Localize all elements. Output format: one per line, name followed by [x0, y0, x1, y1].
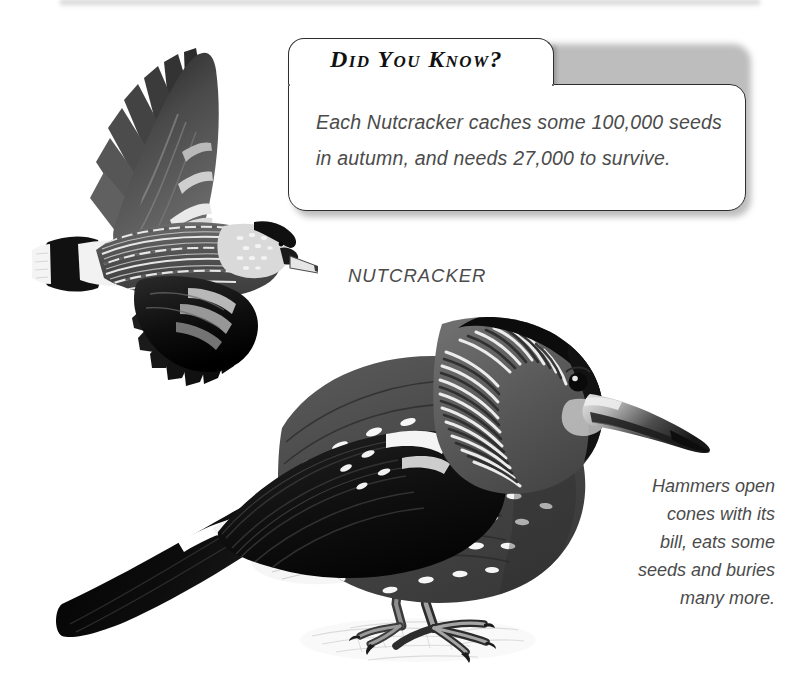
perched-bird-bill	[582, 394, 710, 453]
callout-text-line-2: in autumn, and needs 27,000 to survive.	[316, 147, 671, 169]
scan-shadow-artifact	[60, 0, 760, 7]
did-you-know-callout: Did You Know? Each Nutcracker caches som…	[288, 38, 746, 211]
behaviour-caption: Hammers open cones with its bill, eats s…	[585, 472, 775, 612]
caption-line-5: many more.	[585, 584, 775, 612]
callout-tab-body-join	[290, 82, 552, 87]
callout-text-line-1: Each Nutcracker caches some 100,000 seed…	[316, 111, 722, 133]
species-label-nutcracker: NUTCRACKER	[348, 265, 486, 287]
illustration-page: Did You Know? Each Nutcracker caches som…	[0, 0, 787, 680]
caption-line-2: cones with its	[585, 500, 775, 528]
caption-line-4: seeds and buries	[585, 556, 775, 584]
caption-line-1: Hammers open	[585, 472, 775, 500]
perched-bird-head	[433, 311, 606, 494]
callout-title: Did You Know?	[330, 46, 503, 73]
caption-line-3: bill, eats some	[585, 528, 775, 556]
ground-sketch	[300, 618, 536, 662]
callout-body-text: Each Nutcracker caches some 100,000 seed…	[316, 104, 726, 176]
